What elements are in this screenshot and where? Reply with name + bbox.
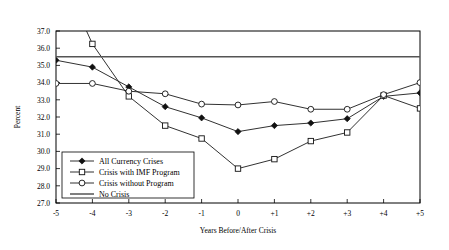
data-point xyxy=(381,92,387,98)
x-tick-label: +4 xyxy=(380,209,388,218)
legend-marker xyxy=(79,180,85,186)
data-point xyxy=(90,41,95,46)
data-point xyxy=(199,101,205,107)
data-point xyxy=(162,91,168,97)
y-axis-title: Percent xyxy=(13,105,22,128)
y-tick-label: 29.0 xyxy=(37,164,50,173)
y-tick-label: 27.0 xyxy=(37,199,50,208)
y-tick-label: 36.0 xyxy=(37,44,50,53)
data-point xyxy=(345,130,350,135)
data-point xyxy=(235,166,240,171)
data-point xyxy=(344,106,350,112)
legend-label: Crisis with IMF Program xyxy=(99,168,180,177)
legend-label: All Currency Crises xyxy=(99,157,163,166)
legend-label: Crisis without Program xyxy=(99,179,174,188)
x-axis-title: Years Before/After Crisis xyxy=(200,226,276,235)
chart-legend: All Currency CrisesCrisis with IMF Progr… xyxy=(62,152,194,199)
data-point xyxy=(308,106,314,112)
data-point xyxy=(199,136,204,141)
x-tick-label: +1 xyxy=(270,209,278,218)
data-point xyxy=(235,102,241,108)
data-point xyxy=(126,88,132,94)
x-tick-label: -4 xyxy=(89,209,95,218)
legend-label: No Crisis xyxy=(99,190,129,199)
y-tick-label: 33.0 xyxy=(37,96,50,105)
x-tick-label: -1 xyxy=(198,209,204,218)
x-tick-label: -5 xyxy=(53,209,59,218)
data-point xyxy=(272,156,277,161)
y-tick-label: 28.0 xyxy=(37,182,50,191)
y-tick-label: 35.0 xyxy=(37,61,50,70)
x-tick-label: +2 xyxy=(307,209,315,218)
line-chart: 27.028.029.030.031.032.033.034.035.036.0… xyxy=(0,0,449,250)
x-tick-label: -3 xyxy=(126,209,132,218)
data-point xyxy=(272,99,278,105)
data-point xyxy=(308,138,313,143)
y-tick-label: 31.0 xyxy=(37,130,50,139)
data-point xyxy=(163,123,168,128)
y-tick-label: 32.0 xyxy=(37,113,50,122)
y-tick-label: 30.0 xyxy=(37,147,50,156)
x-tick-label: +5 xyxy=(416,209,424,218)
legend-marker xyxy=(79,169,84,174)
x-tick-label: +3 xyxy=(343,209,351,218)
x-tick-label: -2 xyxy=(162,209,168,218)
y-tick-label: 37.0 xyxy=(37,27,50,36)
data-point xyxy=(90,81,96,87)
figure-container: F 27.028.029.030.031.032.033.034.035.036… xyxy=(0,0,449,250)
x-tick-label: 0 xyxy=(236,209,240,218)
y-tick-label: 34.0 xyxy=(37,78,50,87)
